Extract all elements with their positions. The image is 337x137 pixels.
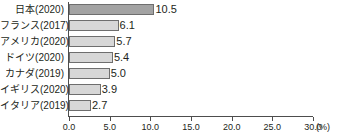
bar (69, 4, 154, 15)
bar-value-label: 5.4 (114, 50, 129, 64)
axis-tick (232, 117, 233, 121)
category-label: フランス(2017) (0, 19, 64, 32)
category-label: アメリカ(2020) (0, 35, 64, 48)
axis-tick (150, 117, 151, 121)
axis-tick-label: 25.0 (264, 122, 282, 133)
bar (69, 100, 91, 111)
bar (69, 36, 115, 47)
bar-value-label: 6.1 (120, 18, 135, 32)
axis-unit-label: (%) (316, 122, 330, 133)
axis-tick (313, 117, 314, 121)
bar-value-label: 5.0 (111, 66, 126, 80)
axis-tick (191, 117, 192, 121)
bar-row: イタリア(2019)2.7 (0, 98, 337, 114)
bar-row: カナダ(2019)5.0 (0, 66, 337, 82)
axis-tick (272, 117, 273, 121)
horizontal-bar-chart: 日本(2020)10.5フランス(2017)6.1アメリカ(2020)5.7ドイ… (0, 0, 337, 137)
bar-row: イギリス(2020)3.9 (0, 82, 337, 98)
category-label: イギリス(2020) (0, 83, 64, 96)
category-label: ドイツ(2020) (0, 51, 64, 64)
category-label: イタリア(2019) (0, 99, 64, 112)
bar-row: フランス(2017)6.1 (0, 18, 337, 34)
bar (69, 84, 101, 95)
axis-tick-label: 0.0 (63, 122, 76, 133)
bar-row: ドイツ(2020)5.4 (0, 50, 337, 66)
bar-row: アメリカ(2020)5.7 (0, 34, 337, 50)
category-label: カナダ(2019) (0, 67, 64, 80)
bar-value-label: 10.5 (155, 2, 176, 16)
bar (69, 20, 119, 31)
bar (69, 68, 110, 79)
bar-value-label: 5.7 (116, 34, 131, 48)
bar (69, 52, 113, 63)
axis-tick-label: 5.0 (103, 122, 116, 133)
bar-value-label: 3.9 (102, 82, 117, 96)
axis-tick (110, 117, 111, 121)
axis-tick-label: 15.0 (182, 122, 200, 133)
axis-tick-label: 10.0 (142, 122, 160, 133)
axis-tick-label: 20.0 (223, 122, 241, 133)
bar-row: 日本(2020)10.5 (0, 2, 337, 18)
bar-value-label: 2.7 (92, 98, 107, 112)
category-label: 日本(2020) (0, 3, 64, 16)
axis-tick (69, 117, 70, 121)
